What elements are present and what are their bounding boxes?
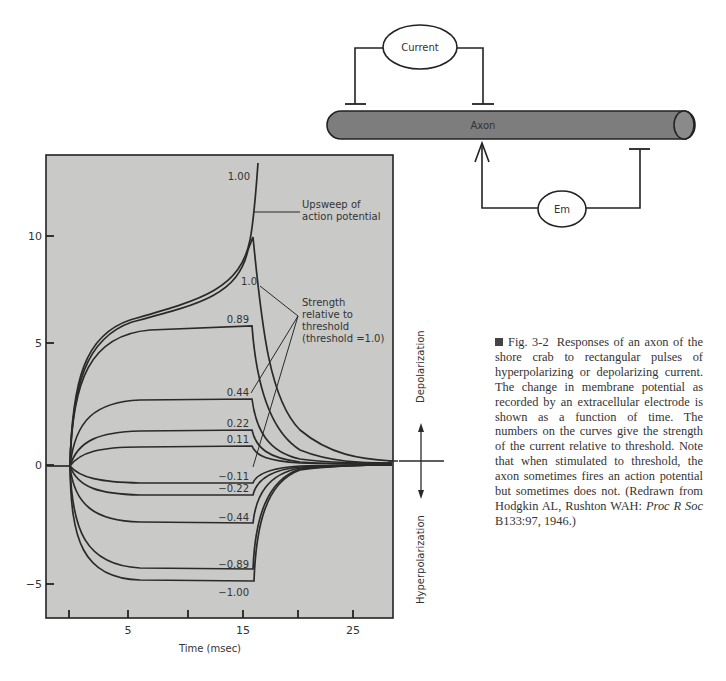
label-0.11: 0.11	[227, 434, 249, 445]
svg-text:threshold: threshold	[302, 321, 349, 332]
svg-text:Strength: Strength	[302, 297, 345, 308]
depolarization-label: Depolarization	[415, 330, 426, 403]
current-label: Current	[401, 42, 439, 53]
y-tick-0: 0	[35, 459, 42, 472]
label-neg0.89: −0.89	[218, 559, 249, 570]
y-tick-10: 10	[28, 230, 42, 243]
caption-marker-icon	[495, 338, 503, 346]
y-tick-neg5: −5	[26, 578, 42, 591]
x-tick-15: 15	[236, 624, 250, 637]
label-neg0.44: −0.44	[218, 512, 249, 523]
polarity-indicator: Depolarization Hyperpolarization	[399, 330, 444, 604]
svg-text:(threshold =1.0): (threshold =1.0)	[302, 333, 384, 344]
label-neg1.00: −1.00	[218, 587, 249, 598]
plot-area	[46, 155, 393, 618]
hyperpolarization-label: Hyperpolarization	[415, 515, 426, 604]
figure-number: Fig. 3-2	[508, 335, 549, 349]
svg-text:relative to: relative to	[302, 309, 353, 320]
label-0.44: 0.44	[227, 387, 249, 398]
label-1.0: 1.0	[241, 276, 257, 287]
y-tick-5: 5	[35, 337, 42, 350]
caption-text: Responses of an axon of the shore crab t…	[495, 335, 703, 513]
x-tick-5: 5	[125, 624, 132, 637]
arrow-up-icon	[418, 423, 424, 432]
label-0.89: 0.89	[227, 314, 249, 325]
em-label: Em	[554, 204, 570, 215]
label-neg0.11: −0.11	[218, 471, 249, 482]
axon-label: Axon	[471, 120, 496, 131]
label-neg0.22: −0.22	[218, 483, 249, 494]
caption-journal: Proc R Soc	[646, 499, 703, 513]
label-0.22: 0.22	[227, 418, 249, 429]
x-axis-label: Time (msec)	[178, 643, 241, 654]
label-1.00: 1.00	[228, 171, 250, 182]
caption-citation: B133:97, 1946.)	[495, 514, 576, 528]
chart: 10 5 0 −5 5 15 25 Time (msec)	[26, 155, 398, 654]
figure-caption: Fig. 3-2Responses of an axon of the shor…	[495, 335, 703, 529]
arrow-down-icon	[418, 490, 424, 499]
axon-tube	[327, 111, 695, 139]
x-tick-25: 25	[346, 624, 360, 637]
svg-text:Upsweep of: Upsweep of	[302, 199, 361, 210]
svg-text:action potential: action potential	[302, 211, 380, 222]
